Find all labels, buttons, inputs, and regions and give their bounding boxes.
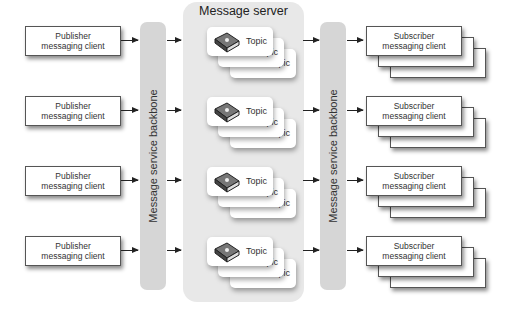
publisher-client: Publisher messaging client [25,26,121,56]
subscriber-client: Subscriber messaging client [366,166,462,196]
subscriber-label: Subscriber [367,171,461,181]
publisher-backbone: Message service backbone [140,22,166,290]
subscriber-label: Subscriber [367,241,461,251]
arrow [303,110,319,111]
subscriber-client: Subscriber messaging client [366,96,462,126]
arrow [167,180,181,181]
publisher-label: Publisher [26,241,120,251]
publisher-client: Publisher messaging client [25,236,121,266]
publisher-client: Publisher messaging client [25,96,121,126]
publisher-label: Publisher [26,31,120,41]
subscriber-label: messaging client [367,251,461,261]
arrow [347,40,363,41]
topic-card: Topic [207,167,273,196]
book-icon [213,101,241,123]
arrow [347,250,363,251]
arrow [347,180,363,181]
publisher-label: Publisher [26,101,120,111]
arrow [347,110,363,111]
publisher-label: messaging client [26,111,120,121]
subscriber-label: messaging client [367,41,461,51]
publisher-label: messaging client [26,181,120,191]
arrow [303,180,319,181]
book-icon [213,241,241,263]
topic-card: Topic [207,97,273,126]
subscriber-client: Subscriber messaging client [366,236,462,266]
arrow [167,110,181,111]
subscriber-label: messaging client [367,111,461,121]
topic-card: Topic [207,237,273,266]
subscriber-client: Subscriber messaging client [366,26,462,56]
topic-card: Topic [207,27,273,56]
server-title: Message server [183,4,304,18]
topic-label: Topic [246,36,267,46]
arrow [303,40,319,41]
publisher-client: Publisher messaging client [25,166,121,196]
arrow [121,180,138,181]
publisher-label: messaging client [26,41,120,51]
arrow [303,250,319,251]
book-icon [213,31,241,53]
subscriber-label: Subscriber [367,101,461,111]
topic-label: Topic [246,176,267,186]
backbone-label: Message service backbone [327,89,339,222]
topic-label: Topic [246,106,267,116]
subscriber-backbone: Message service backbone [320,22,346,290]
subscriber-label: Subscriber [367,31,461,41]
publisher-label: messaging client [26,251,120,261]
backbone-label: Message service backbone [147,89,159,222]
arrow [121,40,138,41]
topic-label: Topic [246,246,267,256]
subscriber-label: messaging client [367,181,461,191]
publisher-label: Publisher [26,171,120,181]
arrow [121,250,138,251]
book-icon [213,171,241,193]
arrow [121,110,138,111]
arrow [167,40,181,41]
arrow [167,250,181,251]
